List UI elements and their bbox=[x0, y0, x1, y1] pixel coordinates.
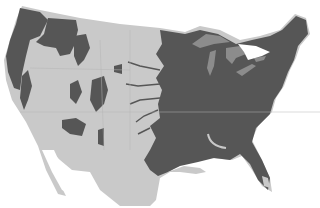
us-forest-map bbox=[0, 0, 320, 208]
